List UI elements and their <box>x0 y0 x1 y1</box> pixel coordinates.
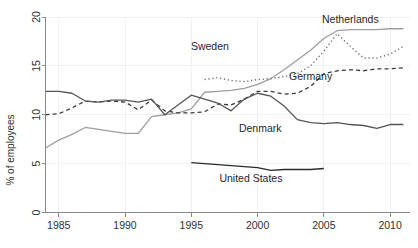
x-tick-label: 2000 <box>246 219 270 231</box>
y-tick-label: 15 <box>30 60 42 72</box>
line-chart: 05101520198519901995200020052010 Netherl… <box>0 0 418 248</box>
y-tick-label: 20 <box>30 11 42 23</box>
series-label-united-states: United States <box>219 172 282 184</box>
chart-background <box>0 0 418 248</box>
x-tick-label: 1995 <box>180 219 204 231</box>
y-tick-label: 10 <box>30 109 42 121</box>
x-tick-label: 1985 <box>47 219 71 231</box>
chart-container: 05101520198519901995200020052010 Netherl… <box>0 0 418 248</box>
x-tick-label: 1990 <box>113 219 137 231</box>
x-tick-label: 2005 <box>312 219 336 231</box>
y-tick-label: 5 <box>30 161 42 167</box>
series-label-sweden: Sweden <box>191 40 229 52</box>
series-label-germany: Germany <box>289 70 333 82</box>
y-axis-title: % of employees <box>5 114 16 185</box>
series-label-netherlands: Netherlands <box>322 13 379 25</box>
series-label-denmark: Denmark <box>239 122 282 134</box>
y-tick-label: 0 <box>30 209 42 215</box>
x-tick-label: 2010 <box>378 219 402 231</box>
